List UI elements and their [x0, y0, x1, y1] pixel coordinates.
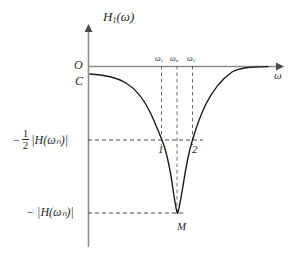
x-axis-label: ω	[274, 70, 282, 81]
y-axis-title: H1(ω)	[103, 10, 134, 25]
peak-value-label: − |H(ωₙ)|	[26, 206, 74, 218]
intercept-label-c: C	[75, 75, 83, 87]
origin-label: O	[74, 59, 83, 71]
y-axis	[85, 24, 93, 247]
half-power-value-label: −12|H(ωₙ)|	[13, 128, 68, 151]
y-axis-arrow	[85, 24, 93, 32]
tick-label-omega-n: ωn	[170, 55, 178, 64]
point-label-1: 1	[158, 144, 164, 155]
figure-container: H1(ω) O C ω ω1 ωn ω2 −12|H(ωₙ)| − |H(ωₙ)…	[0, 0, 294, 256]
point-label-2: 2	[192, 144, 198, 155]
tick-label-omega1: ω1	[155, 55, 163, 64]
point-label-m: M	[177, 221, 186, 232]
tick-label-omega2: ω2	[187, 55, 195, 64]
